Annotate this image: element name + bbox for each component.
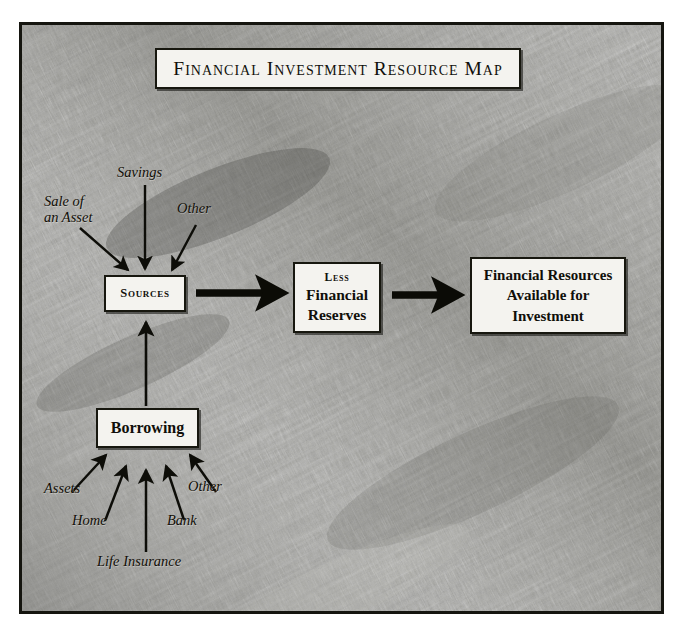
label-sale-of-an-asset: Sale of an Asset [44, 194, 92, 226]
label-home: Home [72, 512, 107, 529]
label-other-borrowing: Other [188, 478, 222, 495]
label-life-insurance: Life Insurance [97, 553, 181, 570]
resources-label-line3: Investment [512, 306, 584, 326]
label-bank: Bank [167, 512, 197, 529]
resources-label-line1: Financial Resources [484, 265, 612, 285]
reserves-label-line1: Financial [306, 285, 368, 305]
financial-reserves-box[interactable]: Less Financial Reserves [293, 262, 381, 333]
label-other-sources: Other [177, 200, 211, 217]
financial-resources-box[interactable]: Financial Resources Available for Invest… [470, 257, 626, 334]
reserves-label-line2: Reserves [308, 305, 367, 325]
label-assets: Assets [44, 480, 80, 497]
resources-label-line2: Available for [507, 285, 590, 305]
label-sale-of-an-asset-line1: Sale of [44, 194, 92, 210]
less-label: Less [324, 270, 349, 284]
sources-box[interactable]: Sources [104, 275, 186, 312]
borrowing-label: Borrowing [111, 419, 184, 437]
sources-label: Sources [120, 286, 169, 301]
title-box: Financial Investment Resource Map [155, 48, 521, 89]
arrow-other-to-sources [172, 225, 196, 270]
diagram-canvas: Financial Investment Resource Map Source… [0, 0, 683, 638]
arrow-sale-of-asset-to-sources [80, 228, 128, 270]
label-sale-of-an-asset-line2: an Asset [44, 210, 92, 226]
page-title: Financial Investment Resource Map [173, 59, 502, 79]
label-savings: Savings [117, 164, 162, 181]
borrowing-box[interactable]: Borrowing [96, 408, 199, 448]
arrow-home-to-borrowing [105, 466, 126, 521]
